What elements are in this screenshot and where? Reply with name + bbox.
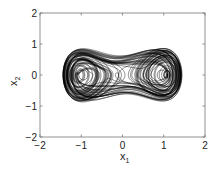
- trajectory-curve: [63, 48, 182, 101]
- y-tick-label: 1: [31, 39, 37, 50]
- x-tick-label: 1: [161, 140, 167, 151]
- y-axis-label: x2: [7, 77, 21, 87]
- x-tick-label: 2: [202, 140, 208, 151]
- phase-portrait-chart: −2−1012 −2−1012 x1 x2: [0, 0, 220, 171]
- y-tick-label: −2: [26, 132, 38, 143]
- y-tick-label: 0: [31, 70, 37, 81]
- x-axis-label: x1: [120, 150, 130, 164]
- y-tick-label: −1: [26, 101, 38, 112]
- y-tick-labels: −2−1012: [26, 8, 38, 143]
- x-tick-label: −1: [76, 140, 88, 151]
- y-tick-label: 2: [31, 8, 37, 19]
